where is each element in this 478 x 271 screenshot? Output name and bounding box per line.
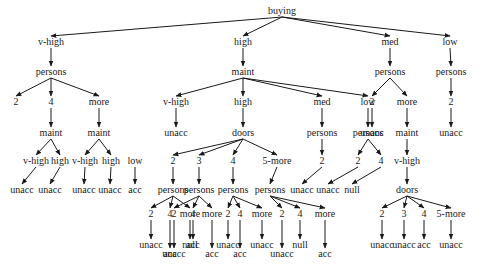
tree-node-label: 4 [49,96,54,107]
decision-tree-diagram: buyingv-highhighmedlowpersonsmaintperson… [0,0,478,271]
tree-node-label: med [313,96,330,107]
tree-node-label: persons [184,184,215,195]
edge-arrow [84,167,85,184]
tree-node-label: 2 [380,208,385,219]
tree-node-label: acc [417,239,431,250]
edge-arrow [50,167,60,184]
tree-node-label: maint [232,66,255,77]
tree-node-label: maint [396,127,419,138]
tree-node-label: unacc [439,239,463,250]
tree-node-label: 2 [356,155,361,166]
tree-node-label: maint [40,127,63,138]
tree-node-label: 2 [449,96,454,107]
tree-node-label: persons [307,127,338,138]
tree-node-label: low [443,36,459,47]
edge-arrow [243,78,368,96]
tree-node-label: more [397,96,418,107]
tree-node-label: null [292,239,308,250]
tree-node-label: v-high [72,155,98,166]
tree-node-label: 3 [402,208,407,219]
edge-arrow [382,196,407,208]
edge-arrow [390,78,407,96]
tree-node-label: unacc [316,184,340,195]
edge-arrow [407,196,451,208]
edge-arrow [450,48,451,66]
tree-node-label: unacc [370,239,394,250]
tree-node-label: unacc [290,184,314,195]
edge-arrow [228,196,233,208]
edge-arrow [22,167,36,184]
edge-arrow [110,167,111,184]
edge-arrow [51,139,60,155]
edge-arrow [199,196,212,208]
tree-node-label: 2 [370,96,375,107]
tree-node-label: 2 [226,208,231,219]
edge-arrow [243,78,322,96]
edge-arrow [243,139,277,155]
edge-arrow [99,139,111,155]
tree-node-label: unacc [392,239,416,250]
tree-node-label: 2 [172,208,177,219]
edge-arrow [368,139,381,155]
tree-node-label: high [102,155,120,166]
tree-node-label: 2 [14,96,19,107]
edge-arrow [51,78,99,96]
tree-node-label: 4 [238,208,243,219]
tree-node-label: 4 [231,155,236,166]
tree-node-label: unacc [360,127,384,138]
tree-node-label: doors [396,184,418,195]
edge-arrow [174,196,199,208]
edge-arrow [173,139,243,155]
tree-node-label: persons [375,66,406,77]
tree-node-label: high [234,96,252,107]
tree-node-label: persons [36,66,67,77]
edge-arrow [233,196,262,208]
tree-node-label: high [51,155,69,166]
tree-node-label: 4 [422,208,427,219]
tree-node-label: unacc [10,184,34,195]
tree-node-label: v-high [163,96,189,107]
tree-node-label: more [89,96,110,107]
edge-arrow [404,196,407,208]
tree-node-label: 2 [149,208,154,219]
tree-node-label: unacc [162,248,186,259]
tree-node-label: low [128,155,144,166]
tree-node-label: acc [233,248,247,259]
tree-node-label: unacc [98,184,122,195]
edge-arrow [51,17,282,36]
tree-node-label: persons [255,184,286,195]
tree-node-label: unacc [270,248,294,259]
tree-node-label: more [315,208,336,219]
tree-node-label: doors [232,127,254,138]
tree-node-label: 5-more [263,155,292,166]
edge-arrow [199,139,243,155]
tree-canvas: buyingv-highhighmedlowpersonsmaintperson… [0,0,478,271]
tree-node-label: med [381,36,398,47]
tree-node-label: v-high [38,36,64,47]
edge-arrow [302,167,322,184]
tree-node-label: unacc [164,127,188,138]
edge-arrow [358,139,368,155]
edge-arrow [176,78,243,96]
tree-node-label: unacc [439,127,463,138]
edge-arrow [352,167,381,184]
tree-node-label: unacc [139,239,163,250]
tree-node-label: persons [218,184,249,195]
tree-node-label: 3 [197,155,202,166]
tree-node-label: 4 [379,155,384,166]
tree-node-label: acc [186,239,200,250]
tree-node-label: 2 [280,208,285,219]
tree-node-label: persons [436,66,467,77]
tree-node-label: acc [128,184,142,195]
edge-arrow [270,167,277,184]
edge-arrow [282,17,390,36]
tree-node-label: unacc [38,184,62,195]
edge-arrow [85,139,99,155]
edge-arrow [36,139,51,155]
edge-arrow [328,167,358,184]
tree-node-label: null [344,184,360,195]
edge-arrow [282,17,450,36]
tree-node-label: buying [268,5,296,16]
nodes: buyingv-highhighmedlowpersonsmaintperson… [10,5,466,259]
tree-node-label: acc [318,248,332,259]
